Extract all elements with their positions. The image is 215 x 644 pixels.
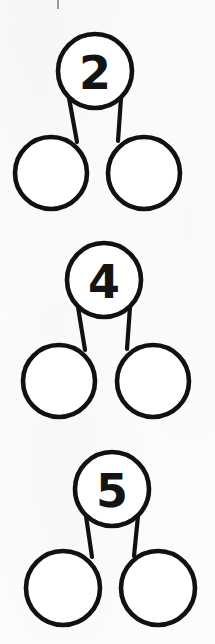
number-bond-1: 2 (0, 0, 215, 215)
bond-2-whole-value: 4 (88, 255, 120, 309)
bond-1-part-right-circle[interactable] (108, 137, 180, 209)
worksheet-page: 2 4 5 (0, 0, 215, 644)
bond-2-link-right (127, 307, 130, 349)
bond-2-part-right-circle[interactable] (117, 345, 189, 417)
number-bond-2: 4 (0, 209, 215, 424)
bond-1-whole-value: 2 (79, 46, 111, 100)
bond-1-part-left-circle[interactable] (15, 137, 87, 209)
bond-3-part-right-circle[interactable] (121, 551, 195, 625)
bond-2-part-left-circle[interactable] (23, 345, 95, 417)
bond-1-link-right (118, 98, 121, 141)
bond-3-part-left-circle[interactable] (26, 551, 100, 625)
bond-3-link-right (134, 516, 138, 556)
bond-3-whole-value: 5 (96, 464, 128, 518)
number-bond-3: 5 (0, 418, 215, 644)
